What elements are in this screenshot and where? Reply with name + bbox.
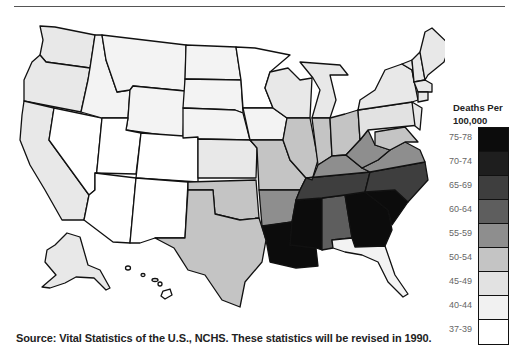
legend-label: 55-59 [449,228,472,238]
legend-label: 60-64 [449,204,472,214]
legend-swatch-70-74 [479,152,508,176]
state-MT [102,35,186,92]
state-AK [42,233,110,290]
source-note: Source: Vital Statistics of the U.S., NC… [16,332,432,344]
state-MS [290,198,322,250]
state-FL [332,238,408,297]
state-NE [183,108,250,140]
state-HI [126,266,173,299]
state-ND [185,45,241,80]
state-WY [126,86,185,138]
legend-label: 45-49 [449,276,472,286]
legend-label: 70-74 [449,156,472,166]
state-MA [414,80,432,92]
legend-swatch-40-44 [479,296,508,320]
state-KS [198,139,257,178]
legend-title-line2: 100,000 [453,114,503,127]
legend-swatches [478,127,509,345]
legend-label: 37-39 [449,324,472,334]
legend-label: 75-78 [449,132,472,142]
state-CO [136,133,198,182]
legend-swatch-60-64 [479,200,508,224]
state-ME [420,28,445,80]
state-NM [130,178,188,243]
state-NY [358,64,418,110]
legend-label: 65-69 [449,180,472,190]
legend-label: 50-54 [449,252,472,262]
legend-swatch-75-78 [479,128,508,152]
us-choropleth-map [0,0,445,330]
legend-title-line1: Deaths Per [453,101,503,114]
legend-swatch-65-69 [479,176,508,200]
legend-swatch-45-49 [479,272,508,296]
legend-swatch-50-54 [479,248,508,272]
legend-swatch-37-39 [479,320,508,344]
legend-title: Deaths Per 100,000 [453,101,503,127]
state-CT [418,92,428,102]
legend-swatch-55-59 [479,224,508,248]
legend-label: 40-44 [449,300,472,310]
